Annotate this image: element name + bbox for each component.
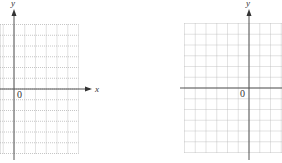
right-coordinate-grid: y 0 (180, 0, 282, 160)
coordinate-grids-figure: x y 0 y 0 (0, 0, 282, 163)
right-y-axis-label: y (245, 0, 250, 8)
left-origin-label: 0 (17, 89, 22, 100)
left-x-axis-label: x (94, 84, 99, 94)
right-y-axis-arrow-icon (247, 9, 252, 16)
left-y-axis-label: y (10, 0, 15, 8)
left-x-axis-arrow-icon (85, 87, 92, 92)
left-y-axis-arrow-icon (12, 9, 17, 16)
right-origin-label: 0 (240, 88, 245, 99)
left-coordinate-grid: x y 0 (0, 0, 99, 160)
